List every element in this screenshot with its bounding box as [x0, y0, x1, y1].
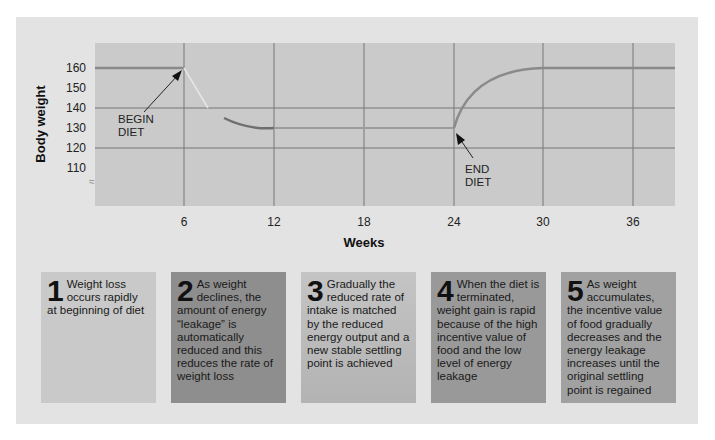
- step-box-1: 1 Weight loss occurs rapidly at beginnin…: [41, 272, 156, 403]
- step-number: 5: [567, 279, 584, 303]
- x-tick-24: 24: [439, 215, 469, 229]
- end-diet-label: END DIET: [465, 163, 491, 189]
- begin-diet-label: BEGIN DIET: [118, 113, 154, 139]
- y-tick-160: 160: [46, 61, 86, 75]
- y-tick-110: 110: [46, 161, 86, 175]
- x-tick-6: 6: [169, 215, 199, 229]
- weight-line-regain: [454, 68, 543, 128]
- x-tick-30: 30: [528, 215, 558, 229]
- y-tick-130: 130: [46, 121, 86, 135]
- step-number: 3: [307, 279, 324, 303]
- y-tick-140: 140: [46, 101, 86, 115]
- x-tick-36: 36: [618, 215, 648, 229]
- y-tick-150: 150: [46, 81, 86, 95]
- y-tick-120: 120: [46, 141, 86, 155]
- step-number: 2: [177, 279, 194, 303]
- axis-break-icon: ≈: [89, 176, 95, 187]
- end-diet-arrowhead-icon: [456, 133, 465, 145]
- step-number: 4: [437, 279, 454, 303]
- x-axis-label: Weeks: [344, 235, 385, 250]
- step-box-2: 2 As weight declines, the amount of ener…: [171, 272, 286, 403]
- step-box-4: 4 When the diet is terminated, weight ga…: [431, 272, 546, 403]
- weight-line-rapid-loss: [184, 68, 208, 108]
- step-number: 1: [47, 279, 64, 303]
- weight-line-decline: [224, 118, 274, 128]
- x-tick-18: 18: [349, 215, 379, 229]
- begin-diet-arrow: [144, 75, 178, 112]
- step-box-5: 5 As weight accumulates, the incentive v…: [561, 272, 676, 403]
- x-tick-12: 12: [259, 215, 289, 229]
- step-box-3: 3 Gradually the reduced rate of intake i…: [301, 272, 416, 403]
- y-axis-label: Body weight: [33, 85, 48, 162]
